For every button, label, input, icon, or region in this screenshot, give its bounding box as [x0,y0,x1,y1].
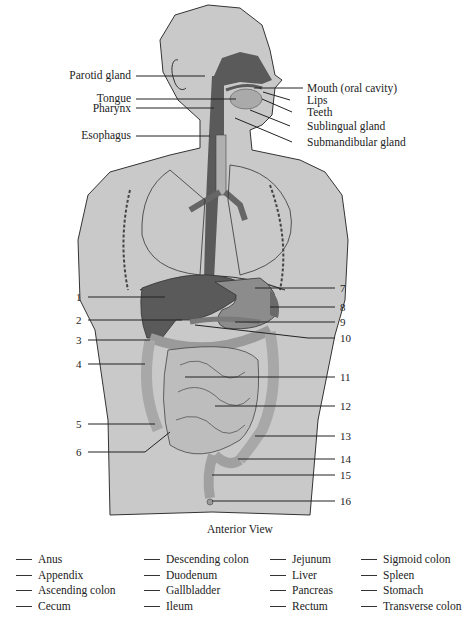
key-item[interactable]: Ascending colon [16,583,116,599]
key-term: Descending colon [166,553,249,565]
number-9: 9 [340,316,346,328]
number-6: 6 [76,446,82,458]
answer-blank[interactable] [361,590,377,591]
key-item[interactable]: Cecum [16,599,116,615]
key-term: Duodenum [166,569,217,581]
key-term: Liver [292,569,317,581]
answer-blank[interactable] [144,590,160,591]
label-sublingual-gland: Sublingual gland [307,120,385,133]
key-item[interactable]: Gallbladder [144,583,249,599]
key-item[interactable]: Duodenum [144,568,249,584]
label-parotid-gland: Parotid gland [69,69,131,82]
key-term: Anus [38,553,62,565]
key-item[interactable]: Jejunum [270,552,333,568]
key-term: Pancreas [292,584,333,596]
key-item[interactable]: Spleen [361,568,461,584]
key-item[interactable]: Ileum [144,599,249,615]
answer-key-column-3: Jejunum Liver Pancreas Rectum [270,552,333,614]
answer-blank[interactable] [361,559,377,560]
answer-blank[interactable] [16,590,32,591]
answer-blank[interactable] [361,575,377,576]
number-5: 5 [76,418,82,430]
key-term: Sigmoid colon [383,553,450,565]
number-15: 15 [340,469,351,481]
number-16: 16 [340,495,351,507]
answer-blank[interactable] [16,559,32,560]
figure-caption: Anterior View [170,523,310,535]
key-term: Spleen [383,569,414,581]
number-7: 7 [340,282,346,294]
number-4: 4 [76,358,82,370]
anus [207,499,213,505]
key-term: Ileum [166,600,193,612]
answer-blank[interactable] [270,575,286,576]
key-term: Jejunum [292,553,331,565]
answer-blank[interactable] [144,559,160,560]
key-item[interactable]: Transverse colon [361,599,461,615]
label-submandibular-gland: Submandibular gland [307,136,406,149]
key-item[interactable]: Sigmoid colon [361,552,461,568]
answer-blank[interactable] [144,606,160,607]
answer-key-column-2: Descending colon Duodenum Gallbladder Il… [144,552,249,614]
answer-blank[interactable] [270,590,286,591]
anatomy-illustration [0,0,476,636]
answer-blank[interactable] [361,606,377,607]
label-esophagus: Esophagus [81,129,131,142]
key-item[interactable]: Anus [16,552,116,568]
number-13: 13 [340,430,351,442]
key-term: Cecum [38,600,71,612]
key-term: Rectum [292,600,328,612]
number-1: 1 [76,291,82,303]
digestive-system-figure: Parotid gland Tongue Pharynx Esophagus M… [0,0,476,636]
key-item[interactable]: Rectum [270,599,333,615]
key-term: Appendix [38,569,83,581]
key-item[interactable]: Descending colon [144,552,249,568]
number-14: 14 [340,453,351,465]
key-item[interactable]: Stomach [361,583,461,599]
answer-blank[interactable] [270,606,286,607]
number-11: 11 [340,371,351,383]
answer-key-column-4: Sigmoid colon Spleen Stomach Transverse … [361,552,461,614]
trachea [216,135,226,195]
label-teeth: Teeth [307,106,332,119]
answer-blank[interactable] [144,575,160,576]
key-item[interactable]: Pancreas [270,583,333,599]
key-term: Ascending colon [38,584,116,596]
key-term: Transverse colon [383,600,461,612]
answer-blank[interactable] [270,559,286,560]
number-3: 3 [76,334,82,346]
number-8: 8 [340,301,346,313]
number-10: 10 [340,332,351,344]
answer-blank[interactable] [16,606,32,607]
key-term: Gallbladder [166,584,220,596]
key-term: Stomach [383,584,423,596]
key-item[interactable]: Appendix [16,568,116,584]
number-2: 2 [76,314,82,326]
number-12: 12 [340,400,351,412]
label-pharynx: Pharynx [93,102,131,115]
answer-key-column-1: Anus Appendix Ascending colon Cecum [16,552,116,614]
rectum [209,455,213,498]
key-item[interactable]: Liver [270,568,333,584]
answer-blank[interactable] [16,575,32,576]
